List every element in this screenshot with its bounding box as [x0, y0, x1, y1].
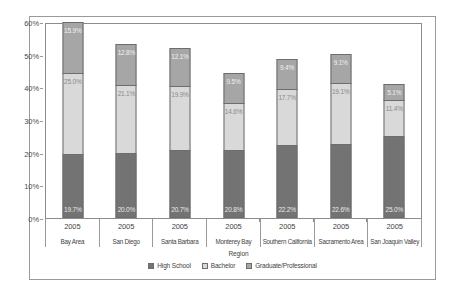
- category-name-label: Southern California: [261, 238, 314, 247]
- category-cell: 2005Sacramento Area: [315, 219, 369, 247]
- bar-segment-label: 17.7%: [278, 94, 295, 101]
- legend-label: Graduate/Professional: [255, 262, 317, 269]
- bar-segment[interactable]: 17.7%: [277, 89, 298, 147]
- category-year-label: 2005: [46, 222, 99, 238]
- bar-segment[interactable]: 19.9%: [169, 86, 190, 151]
- bar-segment-label: 21.1%: [118, 90, 135, 97]
- bar-stack[interactable]: 19.7%25.0%15.9%: [62, 23, 83, 218]
- y-axis-tick-label: 20%: [24, 149, 39, 158]
- bars-row: 19.7%25.0%15.9%20.0%21.1%12.8%20.7%19.9%…: [46, 24, 421, 218]
- bar-slot: 19.7%25.0%15.9%: [46, 24, 100, 218]
- bar-stack[interactable]: 25.0%11.4%5.1%: [384, 85, 405, 218]
- bar-segment-label: 15.9%: [64, 27, 81, 34]
- bar-segment[interactable]: 25.0%: [384, 136, 405, 218]
- y-axis-tick-label: 40%: [24, 84, 39, 93]
- category-cell: 2005Santa Barbara: [153, 219, 207, 247]
- y-axis-tick-label: 30%: [24, 117, 39, 126]
- bar-segment-label: 25.0%: [64, 78, 81, 85]
- category-axis: 2005Bay Area2005San Diego2005Santa Barba…: [45, 219, 422, 247]
- bar-segment-label: 22.2%: [278, 206, 295, 213]
- legend-item[interactable]: Graduate/Professional: [246, 262, 317, 269]
- bar-segment[interactable]: 9.4%: [277, 59, 298, 90]
- legend-swatch-icon: [202, 263, 208, 269]
- bar-slot: 22.2%17.7%9.4%: [260, 24, 314, 218]
- category-cell: 2005Southern California: [261, 219, 315, 247]
- bar-segment[interactable]: 14.6%: [223, 103, 244, 151]
- bar-slot: 20.0%21.1%12.8%: [100, 24, 154, 218]
- bar-segment-label: 22.6%: [332, 206, 349, 213]
- bar-segment[interactable]: 22.2%: [277, 145, 298, 218]
- bar-segment-label: 19.1%: [332, 88, 349, 95]
- category-name-label: Sacramento Area: [315, 238, 368, 247]
- legend-swatch-icon: [246, 263, 252, 269]
- category-cell: 2005Monterey Bay: [207, 219, 261, 247]
- bar-segment-label: 5.1%: [387, 89, 401, 96]
- category-name-label: San Diego: [100, 238, 153, 247]
- y-axis-tick-label: 50%: [24, 51, 39, 60]
- bar-segment[interactable]: 5.1%: [384, 84, 405, 101]
- bar-segment[interactable]: 25.0%: [62, 73, 83, 155]
- category-cell: 2005San Diego: [100, 219, 154, 247]
- bar-segment[interactable]: 21.1%: [116, 85, 137, 154]
- y-axis-tick-mark: [40, 219, 43, 220]
- y-axis-tick-mark: [40, 186, 43, 187]
- bar-segment-label: 25.0%: [386, 206, 403, 213]
- bar-slot: 22.6%19.1%9.1%: [314, 24, 368, 218]
- bar-segment-label: 19.7%: [64, 206, 81, 213]
- category-name-label: Bay Area: [46, 238, 99, 247]
- category-year-label: 2005: [207, 222, 260, 238]
- y-axis-tick-mark: [40, 56, 43, 57]
- bar-segment-label: 20.8%: [225, 206, 242, 213]
- x-axis-title-label: Region: [229, 250, 249, 257]
- y-axis-tick-mark: [40, 88, 43, 89]
- bar-segment-label: 9.1%: [334, 59, 348, 66]
- legend-item[interactable]: High School: [148, 262, 190, 269]
- bar-segment-label: 20.7%: [171, 206, 188, 213]
- chart-legend: High SchoolBachelorGraduate/Professional: [30, 262, 435, 269]
- y-axis-tick-label: 10%: [24, 182, 39, 191]
- plot-area: 19.7%25.0%15.9%20.0%21.1%12.8%20.7%19.9%…: [45, 23, 422, 219]
- bar-segment[interactable]: 20.8%: [223, 150, 244, 218]
- bar-segment-label: 20.0%: [118, 206, 135, 213]
- y-axis-tick-mark: [40, 154, 43, 155]
- bar-stack[interactable]: 20.7%19.9%12.1%: [169, 49, 190, 218]
- category-cell: 2005San Joaquin Valley: [368, 219, 422, 247]
- category-name-label: Santa Barbara: [153, 238, 206, 247]
- bar-stack[interactable]: 22.2%17.7%9.4%: [277, 60, 298, 218]
- bar-slot: 25.0%11.4%5.1%: [367, 24, 421, 218]
- x-axis-title: Region: [45, 250, 422, 257]
- bar-segment[interactable]: 12.8%: [116, 44, 137, 86]
- bar-slot: 20.8%14.6%9.5%: [207, 24, 261, 218]
- y-axis-tick-mark: [40, 23, 43, 24]
- legend-item[interactable]: Bachelor: [202, 262, 235, 269]
- bar-segment[interactable]: 19.7%: [62, 154, 83, 218]
- bar-segment-label: 12.8%: [118, 49, 135, 56]
- category-name-label: Monterey Bay: [207, 238, 260, 247]
- legend-label: High School: [157, 262, 190, 269]
- bar-segment-label: 14.6%: [225, 108, 242, 115]
- y-axis-tick-label: 0%: [28, 215, 39, 224]
- category-year-label: 2005: [100, 222, 153, 238]
- bar-segment[interactable]: 9.1%: [330, 54, 351, 84]
- bar-stack[interactable]: 20.8%14.6%9.5%: [223, 74, 244, 218]
- bar-slot: 20.7%19.9%12.1%: [153, 24, 207, 218]
- y-axis-tick-mark: [40, 121, 43, 122]
- legend-label: Bachelor: [211, 262, 235, 269]
- bar-segment[interactable]: 20.0%: [116, 153, 137, 218]
- bar-segment-label: 9.5%: [227, 78, 241, 85]
- bar-segment[interactable]: 9.5%: [223, 73, 244, 104]
- bar-stack[interactable]: 22.6%19.1%9.1%: [330, 55, 351, 218]
- category-year-label: 2005: [261, 222, 314, 238]
- category-year-label: 2005: [368, 222, 421, 238]
- bar-segment[interactable]: 12.1%: [169, 48, 190, 88]
- legend-swatch-icon: [148, 263, 154, 269]
- category-year-label: 2005: [153, 222, 206, 238]
- bar-segment-label: 11.4%: [386, 105, 403, 112]
- bar-stack[interactable]: 20.0%21.1%12.8%: [116, 45, 137, 218]
- bar-segment[interactable]: 19.1%: [330, 83, 351, 145]
- bar-segment[interactable]: 22.6%: [330, 144, 351, 218]
- bar-segment[interactable]: 20.7%: [169, 150, 190, 218]
- bar-segment[interactable]: 11.4%: [384, 100, 405, 137]
- bar-segment[interactable]: 15.9%: [62, 22, 83, 74]
- chart-frame: 0%10%20%30%40%50%60% 19.7%25.0%15.9%20.0…: [29, 16, 436, 280]
